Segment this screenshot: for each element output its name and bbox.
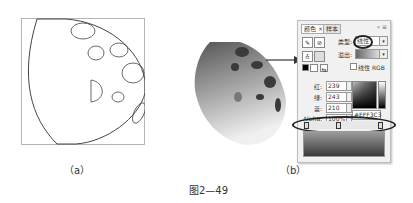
fill-swatch-icon[interactable] [314,51,325,62]
no-color-small-icon[interactable] [310,64,318,72]
tab-swatches[interactable]: 样本 [323,24,341,34]
blue-input[interactable]: 210 [326,103,347,113]
panel-menu-icon[interactable]: « ≡ [376,23,387,30]
green-input[interactable]: 243 [326,92,347,102]
fill-bucket-icon[interactable]: ♁ [302,51,313,62]
linear-rgb-label: 线性 RGB [358,63,385,72]
overflow-select[interactable] [355,49,380,59]
highlight-circle [353,35,373,49]
green-label: 绿: [314,93,322,102]
brightness-slider[interactable] [378,81,386,109]
red-input[interactable]: 239 [326,81,347,91]
black-white-icon[interactable] [302,64,309,71]
type-dropdown-icon[interactable]: ▾ [379,36,388,46]
type-label: 类型: [338,37,352,46]
no-color-icon[interactable]: ⊘ [314,37,325,48]
color-panel: 颜色 × 样本 « ≡ ✎ ⊘ ♁ ⇆ 类型: 线性 ▾ 溢出: ▾ 线性 RG… [297,20,391,163]
red-label: 红: [314,82,322,91]
swap-colors-icon[interactable]: ⇆ [320,64,328,72]
subfigure-a-label: （a） [64,162,90,177]
linear-rgb-checkbox[interactable] [350,63,357,70]
color-spectrum[interactable] [352,81,377,109]
blue-label: 蓝: [314,104,322,113]
overflow-label: 溢出: [338,50,352,59]
overflow-dropdown-icon[interactable]: ▾ [379,49,388,59]
figure-b-gradient-shape [190,30,300,155]
figure-caption: 图2—49 [189,182,228,197]
gradient-preview [303,131,385,157]
figure-a-line-drawing [21,18,145,145]
subfigure-b-label: （b） [280,162,306,177]
stroke-color-icon[interactable]: ✎ [302,37,313,48]
